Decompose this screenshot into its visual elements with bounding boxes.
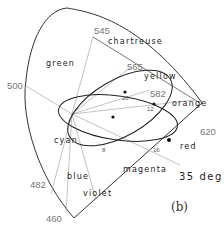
angle-label: 35 deg (179, 171, 223, 182)
region-violet: violet (83, 189, 112, 198)
marker-16: 16 (153, 147, 160, 153)
wavelength-582: 582 (150, 88, 166, 99)
region-magenta: magenta (123, 165, 167, 174)
region-cyan: cyan (54, 136, 78, 145)
region-chartreuse: chartreuse (108, 37, 163, 46)
region-red: red (180, 142, 197, 151)
region-yellow: yellow (144, 72, 177, 81)
wavelength-460: 460 (46, 213, 62, 224)
marker-8: 8 (102, 147, 106, 153)
chromaticity-diagram: 545 565 582 500 620 482 460 green chartr… (0, 0, 224, 232)
ellipses (56, 55, 185, 161)
panel-label: (b) (171, 200, 188, 214)
marker-20: 20 (122, 95, 129, 101)
wavelength-482: 482 (30, 179, 46, 190)
wavelength-565: 565 (127, 61, 143, 72)
wavelength-545: 545 (94, 25, 110, 36)
region-green: green (46, 59, 75, 68)
wavelength-500: 500 (7, 80, 23, 91)
region-orange: orange (172, 99, 207, 108)
wavelength-620: 620 (200, 126, 216, 137)
marker-12: 12 (147, 106, 154, 112)
region-blue: blue (67, 172, 89, 181)
